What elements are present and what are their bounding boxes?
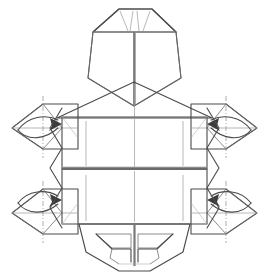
head-snout-trapezoid [93,9,176,32]
origami-diagram-figure: Origami turtle base — crease pattern wit… [0,0,269,278]
head-snout-creases [120,11,150,31]
tail-lower-right [150,249,159,264]
flipper-rear-left [12,181,78,243]
head-panel-left [88,32,134,106]
flipper-rear-right-fold [207,189,257,234]
shell-lower-creases [86,171,183,222]
shell-shoulder-wedge [57,82,212,118]
origami-turtle-svg: Origami turtle base — crease pattern wit… [0,0,269,278]
tail-flap [79,224,190,271]
head-panel-right [134,32,181,106]
flipper-front-right-outline [191,104,257,149]
shell-upper-creases [86,119,183,167]
tail-lower-left [110,249,119,264]
flipper-rear-right [191,181,257,243]
shell-body [62,117,207,224]
flipper-front-right [191,96,257,158]
flipper-front-left-outline [12,104,78,149]
flipper-front-left [12,96,78,158]
tail-subflap-right [138,234,173,248]
tail-subflap-left [96,234,131,248]
flipper-rear-left-fold [12,189,62,234]
